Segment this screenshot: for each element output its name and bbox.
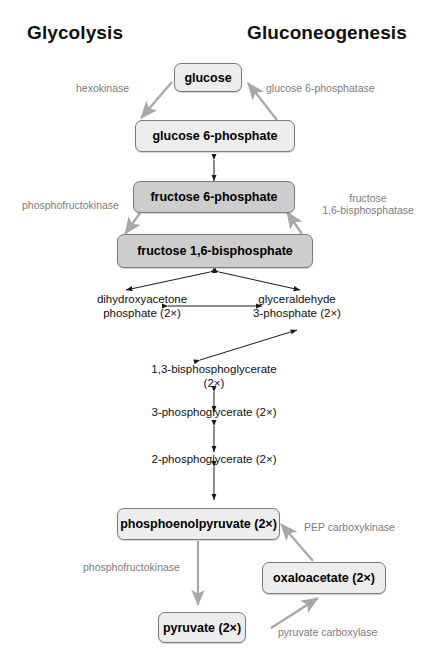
arrow-fbp-dhap bbox=[126, 272, 210, 290]
gap-line-1: glyceraldehyde bbox=[258, 293, 335, 305]
enzyme-fructose-1-6-bisphosphatase: fructose 1,6-bisphosphatase bbox=[316, 192, 420, 216]
label-dihydroxyacetone-phosphate: dihydroxyacetone phosphate (2×) bbox=[87, 293, 197, 320]
bpg-line-2: (2×) bbox=[204, 377, 225, 389]
node-oxaloacetate[interactable]: oxaloacetate (2×) bbox=[262, 562, 386, 594]
enzyme-hexokinase: hexokinase bbox=[76, 82, 129, 94]
dhap-line-1: dihydroxyacetone bbox=[97, 293, 187, 305]
label-3-phosphoglycerate: 3-phosphoglycerate (2×) bbox=[139, 406, 289, 420]
fbpase-line-2: 1,6-bisphosphatase bbox=[322, 204, 414, 216]
bpg-line-1: 1,3-bisphosphoglycerate bbox=[151, 363, 276, 375]
arrow-gap-bpg-reversible bbox=[200, 330, 297, 360]
arrow-fbp-to-f6p bbox=[287, 212, 302, 234]
enzyme-pep-carboxykinase: PEP carboxykinase bbox=[304, 521, 395, 533]
enzyme-phosphofructokinase-upper: phosphofructokinase bbox=[22, 199, 119, 211]
label-glyceraldehyde-3-phosphate: glyceraldehyde 3-phosphate (2×) bbox=[241, 293, 353, 320]
label-2-phosphoglycerate: 2-phosphoglycerate (2×) bbox=[139, 453, 289, 467]
node-fructose-6-phosphate[interactable]: fructose 6-phosphate bbox=[133, 181, 295, 213]
arrow-pyruvate-to-oaa bbox=[271, 598, 318, 628]
enzyme-phosphofructokinase-lower: phosphofructokinase bbox=[83, 561, 180, 573]
enzyme-pyruvate-carboxylase: pyruvate carboxylase bbox=[278, 626, 377, 638]
arrow-fbp-gap bbox=[219, 272, 300, 290]
title-gluconeogenesis: Gluconeogenesis bbox=[247, 22, 407, 44]
fbpase-line-1: fructose bbox=[349, 192, 386, 204]
arrow-glucose-to-g6p bbox=[141, 82, 172, 118]
label-1-3-bisphosphoglycerate: 1,3-bisphosphoglycerate (2×) bbox=[139, 363, 289, 390]
pathway-diagram: Glycolysis Gluconeogenesis glucose gluco… bbox=[0, 0, 430, 668]
node-fructose-1-6-bisphosphate[interactable]: fructose 1,6-bisphosphate bbox=[117, 234, 313, 268]
title-glycolysis: Glycolysis bbox=[27, 22, 123, 44]
enzyme-glucose-6-phosphatase: glucose 6-phosphatase bbox=[266, 82, 375, 94]
node-glucose-6-phosphate[interactable]: glucose 6-phosphate bbox=[135, 120, 295, 152]
node-pyruvate[interactable]: pyruvate (2×) bbox=[158, 612, 246, 643]
node-phosphoenolpyruvate[interactable]: phosphoenolpyruvate (2×) bbox=[117, 508, 280, 540]
dhap-line-2: phosphate (2×) bbox=[103, 307, 181, 319]
arrow-f6p-to-fbp bbox=[125, 213, 140, 234]
node-glucose[interactable]: glucose bbox=[174, 63, 242, 92]
gap-line-2: 3-phosphate (2×) bbox=[253, 307, 341, 319]
